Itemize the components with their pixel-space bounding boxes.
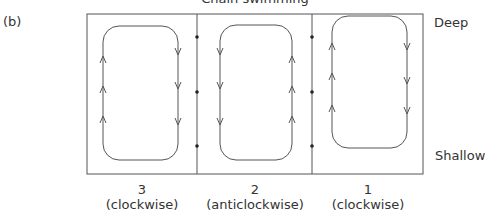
circulation-loop-cell-3 [103, 26, 178, 160]
cell-1-number: 1 [303, 182, 433, 197]
cell-3-direction: (clockwise) [77, 197, 207, 212]
cell-2-number: 2 [190, 182, 320, 197]
cell-3-caption: 3 (clockwise) [77, 182, 207, 212]
tank-outline [87, 14, 423, 174]
cell-2-caption: 2 (anticlockwise) [190, 182, 320, 212]
circulation-loop-cell-2 [220, 25, 292, 160]
cell-1-caption: 1 (clockwise) [303, 182, 433, 212]
circulation-loop-cell-1 [332, 16, 407, 148]
cell-1-direction: (clockwise) [303, 197, 433, 212]
divider-nodes [195, 35, 314, 148]
cell-3-number: 3 [77, 182, 207, 197]
cell-2-direction: (anticlockwise) [190, 197, 320, 212]
